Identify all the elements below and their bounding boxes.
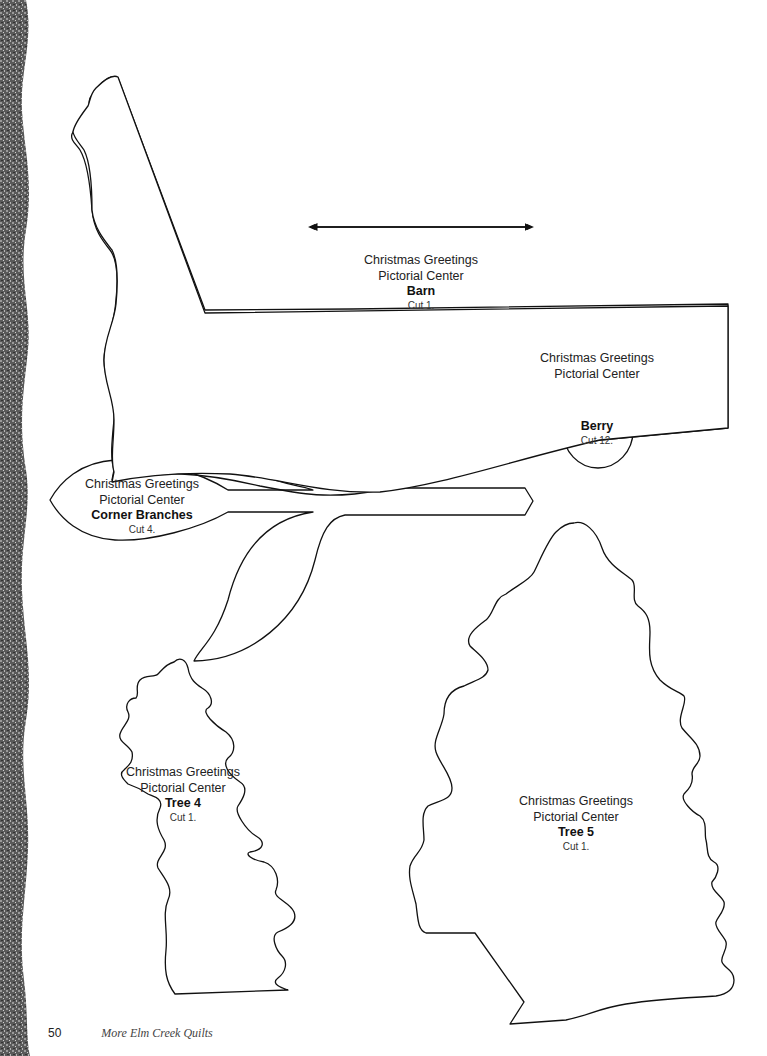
tree4-label-line1: Christmas Greetings (126, 765, 240, 781)
barn-label-cut: Cut 1. (364, 300, 478, 313)
berry-label-line1: Christmas Greetings (540, 351, 654, 367)
book-title: More Elm Creek Quilts (101, 1026, 212, 1040)
tree5-label-name: Tree 5 (519, 825, 633, 841)
tree5-label-line2: Pictorial Center (519, 810, 633, 826)
barn-label-line1: Christmas Greetings (364, 253, 478, 269)
corner-branches-label: Christmas Greetings Pictorial Center Cor… (85, 477, 199, 536)
tree4-label: Christmas Greetings Pictorial Center Tre… (126, 765, 240, 824)
berry-label-name: Berry (581, 419, 614, 435)
corner-branches-label-line1: Christmas Greetings (85, 477, 199, 493)
tree5-label-cut: Cut 1. (519, 841, 633, 854)
corner-branches-label-line2: Pictorial Center (85, 493, 199, 509)
page-footer: 50 More Elm Creek Quilts (48, 1026, 213, 1041)
berry-label-cut: Cut 12. (581, 435, 614, 448)
page-number: 50 (48, 1026, 98, 1040)
tree5-label-line1: Christmas Greetings (519, 794, 633, 810)
tree4-label-line2: Pictorial Center (126, 781, 240, 797)
barn-label-name: Barn (364, 284, 478, 300)
berry-label-inner: Berry Cut 12. (581, 419, 614, 447)
pattern-page: Christmas Greetings Pictorial Center Bar… (0, 0, 767, 1056)
tree5-label: Christmas Greetings Pictorial Center Tre… (519, 794, 633, 853)
corner-branches-label-cut: Cut 4. (85, 524, 199, 537)
berry-label-line2: Pictorial Center (540, 367, 654, 383)
barn-label: Christmas Greetings Pictorial Center Bar… (364, 253, 478, 312)
corner-branches-label-name: Corner Branches (85, 508, 199, 524)
tree4-label-name: Tree 4 (126, 796, 240, 812)
tree4-label-cut: Cut 1. (126, 812, 240, 825)
barn-label-line2: Pictorial Center (364, 269, 478, 285)
berry-label-top: Christmas Greetings Pictorial Center (540, 351, 654, 382)
